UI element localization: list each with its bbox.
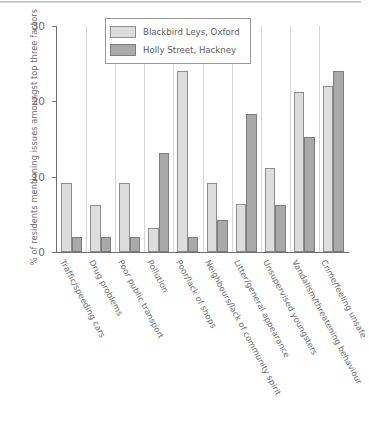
legend-entry-label: Holly Street, Hackney xyxy=(143,45,236,55)
bar xyxy=(90,205,101,252)
x-tick-label: Litter/general appearance xyxy=(232,258,292,359)
bar xyxy=(217,220,228,252)
bar xyxy=(177,71,188,252)
bar xyxy=(323,86,334,252)
bar xyxy=(207,183,218,252)
category-gridline xyxy=(290,26,291,252)
bar xyxy=(294,92,305,252)
bar xyxy=(304,137,315,252)
y-tick-mark: 20 xyxy=(52,101,57,102)
bar xyxy=(333,71,344,252)
bar xyxy=(148,228,159,252)
chart-legend: Blackbird Leys, Oxford Holly Street, Hac… xyxy=(105,18,251,64)
y-tick-mark: 10 xyxy=(52,177,57,178)
legend-entry-label: Blackbird Leys, Oxford xyxy=(143,27,240,37)
y-tick-mark: 0 xyxy=(52,252,57,253)
y-tick-label: 10 xyxy=(32,171,45,182)
bar xyxy=(61,183,72,252)
bar xyxy=(275,205,286,252)
category-gridline xyxy=(319,26,320,252)
y-axis-label: % of residents mentioning issues amoungs… xyxy=(29,7,39,267)
bar xyxy=(246,114,257,252)
y-tick-mark: 30 xyxy=(52,26,57,27)
legend-swatch-icon xyxy=(110,26,136,38)
x-tick-label: Pollution xyxy=(145,258,171,294)
bar xyxy=(72,237,83,252)
bar xyxy=(119,183,130,252)
bar xyxy=(130,237,141,252)
x-axis-line xyxy=(56,252,349,253)
y-tick-label: 20 xyxy=(32,96,45,107)
legend-entry-holly-street: Holly Street, Hackney xyxy=(110,41,250,59)
x-tick-label: Unsupervised youngsters xyxy=(261,258,320,357)
bar xyxy=(101,237,112,252)
y-tick-label: 0 xyxy=(38,247,45,258)
top-divider-rule xyxy=(0,1,361,3)
category-gridline xyxy=(261,26,262,252)
bar xyxy=(188,237,199,252)
legend-swatch-icon xyxy=(110,44,136,56)
category-gridline xyxy=(86,26,87,252)
bar xyxy=(159,153,170,252)
bar xyxy=(236,204,247,252)
bar xyxy=(265,168,276,252)
legend-entry-blackbird-leys: Blackbird Leys, Oxford xyxy=(110,23,250,41)
y-axis-line xyxy=(56,26,57,253)
y-tick-label: 30 xyxy=(32,21,45,32)
